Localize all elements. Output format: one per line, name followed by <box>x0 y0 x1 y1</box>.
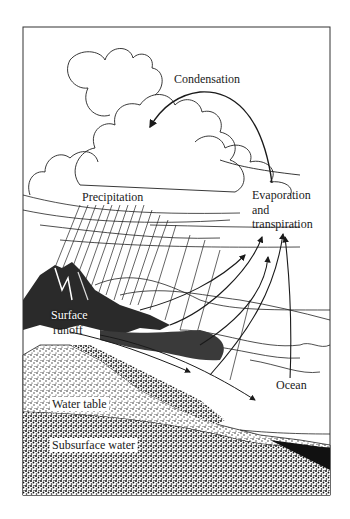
label-ocean: Ocean <box>274 378 309 392</box>
label-subsurface-water: Subsurface water <box>50 438 137 452</box>
label-surface-runoff-1: Surface <box>49 308 90 322</box>
label-surface-runoff-2: runoff <box>53 323 83 337</box>
cloud-icon <box>29 48 300 195</box>
label-precipitation: Precipitation <box>82 190 143 204</box>
mountain <box>23 262 170 335</box>
label-condensation: Condensation <box>174 72 240 86</box>
condensation-arrow <box>150 92 272 183</box>
label-evaporation-2: and <box>252 203 269 217</box>
label-evaporation-3: transpiration <box>252 217 313 231</box>
label-evaporation-1: Evaporation <box>252 188 311 202</box>
label-water-table: Water table <box>50 397 109 411</box>
